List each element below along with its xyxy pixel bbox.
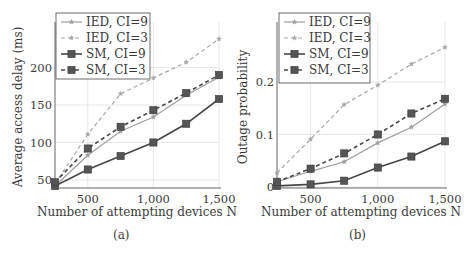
star-marker [151, 75, 156, 80]
series-sm-ci-3 [273, 95, 448, 185]
legend-label: IED, CI=9 [86, 15, 148, 29]
star-marker [375, 83, 380, 88]
y-tick-label: 150 [30, 98, 52, 112]
series-ied-ci-9 [53, 75, 222, 188]
legend-label: SM, CI=3 [86, 63, 146, 77]
y-tick-label: 0.2 [256, 75, 274, 89]
x-tick-label: 1,500 [203, 192, 236, 206]
legend-label: SM, CI=9 [86, 47, 146, 61]
legend: IED, CI=9IED, CI=3SM, CI=9SM, CI=3 [279, 13, 371, 83]
series-sm-ci-9 [273, 138, 448, 190]
y-tick-label: 100 [30, 136, 52, 150]
legend-label: IED, CI=3 [309, 31, 371, 45]
square-marker [84, 145, 91, 152]
y-axis-label: Average access delay (ms) [11, 27, 25, 189]
square-marker [374, 131, 381, 138]
star-marker [118, 91, 123, 96]
x-tick-label: 1,000 [361, 192, 394, 206]
line-chart-outage-probability: 5001,0001,50000.10.2Number of attempting… [237, 0, 474, 254]
square-marker [117, 123, 124, 130]
x-tick-label: 500 [300, 192, 322, 206]
square-marker [307, 181, 314, 188]
chart-panel-a: 5001,0001,50050100150200Number of attemp… [0, 0, 237, 254]
square-marker [150, 139, 157, 146]
square-marker [215, 71, 222, 78]
legend-label: IED, CI=9 [309, 15, 371, 29]
square-marker [150, 107, 157, 114]
square-marker [408, 110, 415, 117]
square-marker [273, 178, 280, 185]
legend: IED, CI=9IED, CI=3SM, CI=9SM, CI=3 [56, 13, 150, 79]
star-marker [443, 45, 448, 50]
legend-label: SM, CI=3 [309, 63, 369, 77]
legend-label: SM, CI=9 [309, 47, 369, 61]
square-marker [291, 50, 298, 57]
square-marker [441, 95, 448, 102]
line-chart-average-access-delay: 5001,0001,50050100150200Number of attemp… [0, 0, 237, 254]
panel-caption-b: (b) [349, 228, 366, 242]
square-marker [183, 120, 190, 127]
x-axis-label: Number of attempting devices N [37, 205, 237, 219]
square-marker [117, 152, 124, 159]
square-marker [183, 89, 190, 96]
x-tick-label: 500 [77, 192, 99, 206]
x-tick-label: 1,000 [137, 192, 170, 206]
y-tick-label: 50 [37, 173, 52, 187]
legend-label: IED, CI=3 [86, 31, 148, 45]
star-marker [85, 132, 90, 137]
square-marker [68, 50, 75, 57]
chart-panel-b: 5001,0001,50000.10.2Number of attempting… [237, 0, 474, 254]
y-axis-label: Outage probability [237, 50, 250, 165]
square-marker [341, 150, 348, 157]
y-tick-label: 0.1 [256, 128, 274, 142]
star-marker [342, 159, 347, 164]
square-marker [341, 177, 348, 184]
square-marker [68, 66, 75, 73]
panel-caption-a: (a) [113, 228, 130, 242]
y-tick-label: 0 [267, 180, 274, 194]
series-sm-ci-3 [51, 71, 222, 185]
square-marker [374, 164, 381, 171]
square-marker [307, 165, 314, 172]
square-marker [215, 95, 222, 102]
square-marker [84, 166, 91, 173]
square-marker [51, 179, 58, 186]
square-marker [291, 66, 298, 73]
square-marker [408, 153, 415, 160]
x-axis-label: Number of attempting devices N [261, 205, 461, 219]
y-tick-label: 200 [30, 61, 52, 75]
x-tick-label: 1,500 [429, 192, 462, 206]
star-marker [217, 36, 222, 41]
series-ied-ci-9 [275, 101, 448, 183]
square-marker [441, 138, 448, 145]
